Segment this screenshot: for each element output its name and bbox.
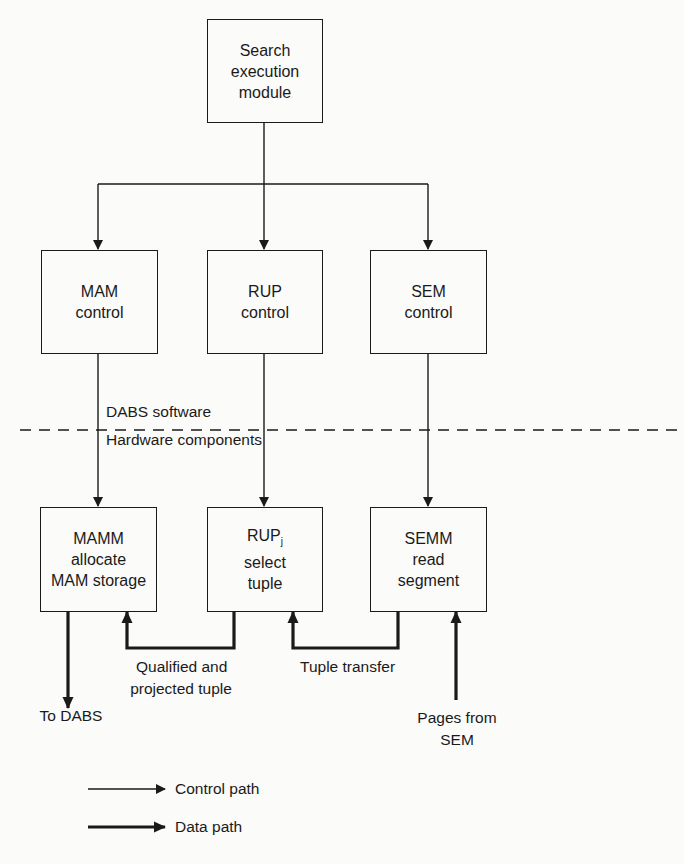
legend-data-label: Data path	[175, 816, 242, 837]
connector-layer	[0, 0, 684, 864]
rupj-box: RUPj select tuple	[207, 507, 323, 612]
mamm-box: MAMM allocate MAM storage	[40, 507, 157, 612]
to-dabs-label: To DABS	[36, 705, 106, 726]
legend-control-label: Control path	[175, 778, 259, 799]
mamm-line1: MAMM	[73, 528, 124, 549]
mamm-line2: allocate	[71, 549, 126, 570]
semm-line2: read	[412, 549, 444, 570]
semm-box: SEMM read segment	[370, 507, 487, 612]
top-line2: execution	[231, 61, 300, 82]
rupj-line3: tuple	[248, 573, 283, 594]
search-execution-module-box: Search execution module	[207, 19, 323, 123]
qualified-label-line2: projected tuple	[126, 678, 236, 699]
semm-line1: SEMM	[405, 528, 453, 549]
mam-control-line2: control	[75, 302, 123, 323]
top-line3: module	[239, 82, 291, 103]
top-line1: Search	[240, 40, 291, 61]
mam-control-line1: MAM	[81, 281, 118, 302]
rup-control-line1: RUP	[248, 281, 282, 302]
sem-control-box: SEM control	[370, 250, 487, 354]
pages-sem-label: SEM	[415, 729, 499, 750]
sem-control-line2: control	[404, 302, 452, 323]
rupj-line1: RUPj	[247, 525, 283, 552]
pages-from-label: Pages from	[415, 707, 499, 728]
rup-control-line2: control	[241, 302, 289, 323]
tuple-transfer-label: Tuple transfer	[300, 656, 390, 677]
semm-line3: segment	[398, 570, 459, 591]
rupj-subscript: j	[281, 536, 283, 547]
qualified-label-line1: Qualified and	[136, 656, 226, 677]
dabs-software-label: DABS software	[106, 401, 211, 422]
sem-control-line1: SEM	[411, 281, 446, 302]
mamm-line3: MAM storage	[51, 570, 146, 591]
hardware-components-label: Hardware components	[106, 429, 262, 450]
mam-control-box: MAM control	[41, 250, 158, 354]
rup-control-box: RUP control	[207, 250, 323, 354]
rupj-line2: select	[244, 552, 286, 573]
